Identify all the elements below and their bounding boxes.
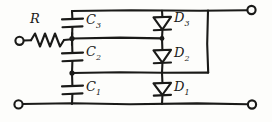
diode-d3-cathode-bar: [154, 30, 171, 31]
node-diode-upper: [160, 36, 165, 41]
terminal-input-bottom-left[interactable]: [14, 100, 22, 108]
terminal-output-bottom-right[interactable]: [248, 100, 256, 108]
wire-right-vertical: [207, 11, 208, 73]
label-diode-d3: D3: [174, 11, 190, 28]
capacitor-c3-plate-top: [62, 19, 83, 20]
capacitor-c3-plate-bottom: [63, 26, 83, 27]
circuit-diagram: R C3 C2 C1 D3 D2 D1: [0, 0, 272, 122]
label-capacitor-c3: C3: [86, 13, 101, 30]
label-capacitor-c2: C2: [86, 45, 101, 62]
diode-d1-cathode-bar: [154, 95, 171, 96]
diode-d1-triangle: [154, 83, 172, 95]
wire-lower-node-rail: [72, 72, 162, 73]
label-diode-d2: D2: [174, 46, 190, 63]
diode-d2-triangle: [154, 50, 172, 63]
node-capacitor-upper: [69, 36, 74, 41]
node-capacitor-lower: [69, 70, 74, 75]
schematic-canvas: [0, 0, 272, 122]
terminal-output-top-right[interactable]: [247, 6, 255, 14]
label-capacitor-c1: C1: [86, 80, 101, 97]
terminal-input-left[interactable]: [15, 37, 23, 45]
wire-top-rail: [72, 10, 247, 11]
resistor-r-zigzag: [31, 34, 64, 47]
diode-d3-triangle: [154, 17, 172, 30]
diode-d2-cathode-bar: [154, 63, 171, 64]
wire-bottom-rail: [22, 103, 248, 104]
label-resistor-r: R: [30, 12, 40, 25]
capacitor-c1-plate-bottom: [63, 93, 83, 94]
label-diode-d1: D1: [174, 80, 190, 97]
capacitor-c1-plate-top: [62, 86, 83, 87]
wire-upper-node-rail: [72, 38, 162, 39]
capacitor-c2-plate-bottom: [63, 60, 83, 61]
capacitor-c2-plate-top: [62, 53, 83, 54]
